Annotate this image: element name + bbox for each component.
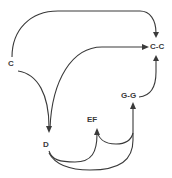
edge-gg-to-cc bbox=[139, 60, 156, 97]
node-d: D bbox=[43, 141, 49, 149]
node-cc: C-C bbox=[150, 43, 164, 51]
node-c: C bbox=[8, 60, 14, 68]
arrowhead-icon bbox=[46, 126, 52, 133]
edge-c-to-cc bbox=[12, 11, 156, 57]
diagram-canvas bbox=[0, 0, 172, 178]
arrowhead-icon bbox=[142, 44, 149, 50]
arrowhead-icon bbox=[153, 55, 159, 61]
node-ef: EF bbox=[87, 116, 97, 124]
arrowhead-icon bbox=[130, 102, 136, 109]
arrowhead-icon bbox=[153, 32, 159, 38]
edge-d-to-ef bbox=[49, 134, 97, 162]
edge-gg-to-ef bbox=[97, 130, 133, 144]
edge-c-to-d bbox=[18, 71, 49, 127]
node-gg: G-G bbox=[121, 92, 136, 100]
